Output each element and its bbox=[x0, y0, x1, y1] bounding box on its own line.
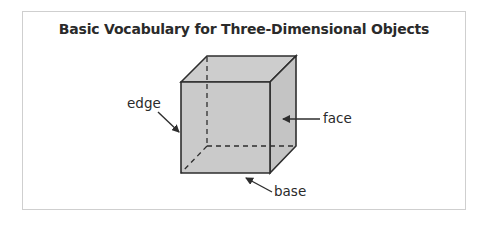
cube-diagram bbox=[0, 0, 489, 229]
edge-label: edge bbox=[127, 95, 161, 111]
face-label: face bbox=[323, 110, 352, 126]
base-arrow bbox=[246, 178, 272, 192]
edge-arrow bbox=[158, 112, 179, 132]
cube-shape bbox=[181, 56, 296, 173]
base-label: base bbox=[274, 183, 306, 199]
